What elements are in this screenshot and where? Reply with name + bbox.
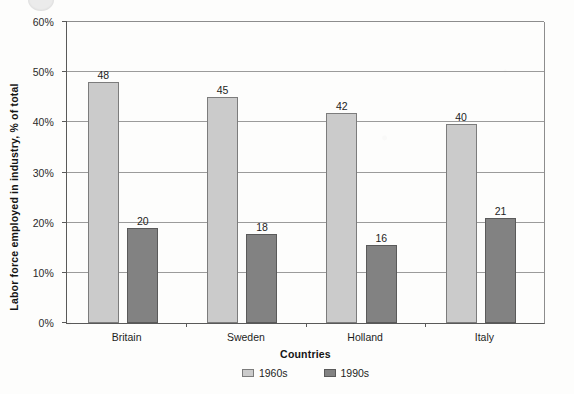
x-axis-title: Countries bbox=[66, 348, 545, 360]
y-tick-label-0: 0% bbox=[39, 317, 54, 329]
x-category-label-holland: Holland bbox=[347, 331, 383, 343]
bar-value-italy-1990s: 21 bbox=[495, 205, 507, 217]
bar-britain-1990s[interactable]: 20 bbox=[127, 228, 158, 323]
x-category-label-italy: Italy bbox=[475, 331, 494, 343]
y-axis-title: Labor force employed in industry, % of t… bbox=[8, 83, 20, 310]
y-tick-label-20: 20% bbox=[33, 217, 54, 229]
y-tick-label-30: 30% bbox=[33, 167, 54, 179]
light-gray-swatch-icon bbox=[242, 369, 254, 377]
bar-value-sweden-1960s: 45 bbox=[217, 84, 229, 96]
x-category-label-britain: Britain bbox=[112, 331, 142, 343]
x-tick-sweden bbox=[306, 323, 307, 327]
bar-group-holland: 42 16 Holland bbox=[306, 22, 425, 323]
bar-sweden-1960s[interactable]: 45 bbox=[207, 97, 238, 323]
bar-value-italy-1960s: 40 bbox=[455, 111, 467, 123]
bar-group-italy: 40 21 Italy bbox=[425, 22, 544, 323]
y-tick-label-10: 10% bbox=[33, 267, 54, 279]
y-tick-label-40: 40% bbox=[33, 116, 54, 128]
bar-value-sweden-1990s: 18 bbox=[256, 221, 268, 233]
bar-value-britain-1960s: 48 bbox=[98, 69, 110, 81]
bar-group-sweden: 45 18 Sweden bbox=[186, 22, 305, 323]
bar-sweden-1990s[interactable]: 18 bbox=[246, 234, 277, 323]
bar-group-britain: 48 20 Britain bbox=[67, 22, 186, 323]
x-tick-britain bbox=[186, 323, 187, 327]
bar-value-holland-1960s: 42 bbox=[336, 100, 348, 112]
bar-italy-1990s[interactable]: 21 bbox=[485, 218, 516, 323]
x-tick-holland bbox=[425, 323, 426, 327]
x-category-label-sweden: Sweden bbox=[227, 331, 265, 343]
bar-value-holland-1990s: 16 bbox=[375, 232, 387, 244]
bar-britain-1960s[interactable]: 48 bbox=[88, 82, 119, 323]
bar-italy-1960s[interactable]: 40 bbox=[446, 124, 477, 323]
y-tick-label-50: 50% bbox=[33, 66, 54, 78]
legend-label-1990s: 1990s bbox=[341, 367, 370, 379]
bar-holland-1960s[interactable]: 42 bbox=[326, 113, 357, 323]
legend-item-1990s[interactable]: 1990s bbox=[324, 367, 370, 379]
chart-legend: 1960s 1990s bbox=[66, 367, 545, 379]
legend-item-1960s[interactable]: 1960s bbox=[242, 367, 288, 379]
bar-holland-1990s[interactable]: 16 bbox=[366, 245, 397, 323]
dark-gray-swatch-icon bbox=[324, 369, 336, 377]
bar-value-britain-1990s: 20 bbox=[137, 215, 149, 227]
plot-area: 60% 50% 40% 30% 20% 10% 0% 48 bbox=[66, 22, 545, 324]
y-tick-label-60: 60% bbox=[33, 16, 54, 28]
chart-screenshot: Labor force employed in industry, % of t… bbox=[0, 0, 574, 394]
scan-artifact-smudge bbox=[28, 0, 54, 11]
legend-label-1960s: 1960s bbox=[259, 367, 288, 379]
